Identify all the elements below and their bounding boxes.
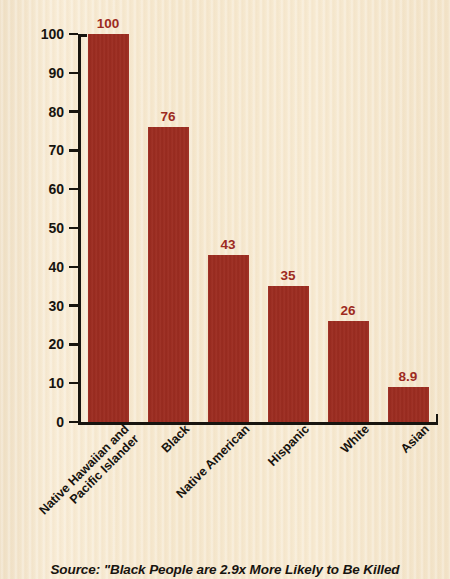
- bar-value-label: 35: [280, 268, 295, 283]
- y-axis-tick: 0: [69, 421, 78, 424]
- x-axis-category-label-line: Pacific Islander: [47, 432, 143, 528]
- bar-value-label: 76: [160, 109, 175, 124]
- bar[interactable]: 35: [268, 286, 309, 422]
- x-axis-category-label-line: Hispanic: [265, 422, 312, 469]
- bar[interactable]: 8.9: [388, 387, 429, 422]
- source-caption: Source: "Black People are 2.9x More Like…: [0, 562, 450, 577]
- x-axis-category-label-line: Black: [158, 422, 192, 456]
- x-axis-line: [78, 422, 438, 425]
- y-axis-tick: 30: [69, 304, 78, 307]
- y-axis-tick: 40: [69, 266, 78, 269]
- y-axis-tick: 50: [69, 227, 78, 230]
- y-axis-tick-label: 90: [48, 65, 64, 81]
- y-axis-tick-label: 70: [48, 142, 64, 158]
- bar[interactable]: 43: [208, 255, 249, 422]
- y-axis-tick-label: 60: [48, 181, 64, 197]
- y-axis-top-cap: [78, 34, 87, 37]
- y-axis-tick-label: 40: [48, 259, 64, 275]
- x-axis-category-label-line: Native Hawaiian and: [37, 422, 133, 518]
- bar[interactable]: 100: [88, 34, 129, 422]
- bar-chart-figure: Killings per 1 million people 0102030405…: [0, 0, 450, 579]
- x-axis-category-label: Native Hawaiian andPacific Islander: [37, 422, 143, 528]
- x-axis-category-label-line: Asian: [398, 422, 432, 456]
- y-axis-tick-label: 30: [48, 298, 64, 314]
- plot-area: 0102030405060708090100 100764335268.9 Na…: [78, 34, 438, 422]
- x-axis-category-label: Hispanic: [265, 422, 312, 469]
- y-axis-tick-label: 80: [48, 104, 64, 120]
- bar-value-label: 100: [97, 16, 120, 31]
- y-axis-tick: 90: [69, 72, 78, 75]
- x-axis-right-cap: [436, 414, 439, 425]
- y-axis-tick-label: 10: [48, 375, 64, 391]
- y-axis-tick-label: 0: [56, 414, 64, 430]
- x-axis-category-label: Black: [158, 422, 192, 456]
- bar-value-label: 43: [220, 237, 235, 252]
- bar-value-label: 26: [340, 303, 355, 318]
- y-axis-tick: 80: [69, 110, 78, 113]
- y-axis-tick-label: 20: [48, 336, 64, 352]
- y-axis-tick-label: 50: [48, 220, 64, 236]
- y-axis-line: [78, 34, 81, 422]
- bar-value-label: 8.9: [399, 369, 418, 384]
- y-axis-title: Killings per 1 million people: [6, 0, 32, 60]
- y-axis-tick: 20: [69, 343, 78, 346]
- y-axis-tick: 60: [69, 188, 78, 191]
- bar[interactable]: 76: [148, 127, 189, 422]
- y-axis-tick: 70: [69, 149, 78, 152]
- x-axis-category-label: White: [338, 422, 372, 456]
- y-axis-tick-label: 100: [41, 26, 64, 42]
- y-axis-tick: 100: [69, 33, 78, 36]
- bar[interactable]: 26: [328, 321, 369, 422]
- x-axis-category-label: Asian: [398, 422, 432, 456]
- y-axis-tick: 10: [69, 382, 78, 385]
- x-axis-category-label-line: White: [338, 422, 372, 456]
